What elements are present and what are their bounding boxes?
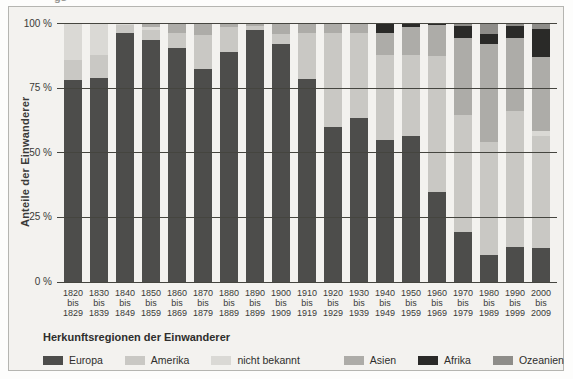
x-axis-labels: 1820bis18291830bis18391840bis18491850bis… [57,288,557,318]
segment-europa [480,255,498,282]
x-label-1830-1839: 1830bis1839 [86,288,112,318]
x-label-1850-1859: 1850bis1859 [138,288,164,318]
legend-label: Amerika [151,354,190,366]
figure-box: Anteile der Einwanderer 100 %75 %50 %25 … [8,6,564,371]
segment-amerika [298,33,316,80]
segment-afrika [376,24,394,33]
legend-swatch-nicht-bekannt [211,356,231,365]
segment-asien [428,25,446,56]
legend-swatch-ozeanien [493,356,513,365]
legend-label: nicht bekannt [237,354,299,366]
segment-asien [532,57,550,131]
segment-asien [480,44,498,142]
segment-ozeanien [480,24,498,34]
x-label-1920-1929: 1920bis1929 [320,288,346,318]
legend-item-nicht-bekannt: nicht bekannt [211,354,299,366]
x-label-1860-1869: 1860bis1869 [164,288,190,318]
segment-asien [272,24,290,34]
y-tick-label-25: 25 % [6,211,52,222]
segment-europa [324,127,342,282]
segment-amerika [376,55,394,140]
legend-label: Ozeanien [519,354,564,366]
legend-swatch-europa [43,356,63,365]
cropped-title-text: gs [54,0,84,3]
segment-afrika [532,29,550,57]
segment-europa [272,44,290,282]
segment-amerika [480,142,498,254]
segment-amerika [194,35,212,69]
segment-amerika [90,55,108,78]
gridline-50 [57,152,557,153]
segment-asien [402,27,420,54]
segment-asien [168,24,186,33]
segment-europa [142,40,160,282]
segment-europa [298,79,316,282]
gridline-100 [57,23,557,24]
segment-europa [168,48,186,282]
legend-label: Afrika [444,354,471,366]
x-label-1880-1889: 1880bis1889 [216,288,242,318]
segment-amerika [506,111,524,247]
segment-amerika [350,33,368,118]
legend-label: Asien [370,354,396,366]
segment-asien [194,24,212,36]
segment-europa [376,140,394,282]
segment-afrika [480,34,498,44]
segment-amerika [116,25,134,33]
legend-item-afrika: Afrika [418,354,471,366]
x-label-1950-1959: 1950bis1959 [398,288,424,318]
x-label-1820-1829: 1820bis1829 [60,288,86,318]
segment-amerika [454,115,472,231]
segment-europa [350,118,368,282]
plot-area: 100 %75 %50 %25 %0 % [57,15,557,282]
y-axis-title: Anteile der Einwanderer [19,67,33,257]
segment-europa [506,247,524,282]
segment-amerika [64,60,82,81]
segment-europa [532,248,550,282]
segment-amerika [220,27,238,52]
legend-row: EuropaAmerikanicht bekanntAsienAfrikaOze… [43,354,553,366]
segment-asien [454,38,472,116]
x-label-1990-1999: 1990bis1999 [502,288,528,318]
legend-item-amerika: Amerika [125,354,190,366]
x-label-2000-2009: 2000bis2009 [528,288,554,318]
segment-europa [194,69,212,282]
x-label-1930-1939: 1930bis1939 [346,288,372,318]
segment-afrika [506,26,524,38]
segment-amerika [272,34,290,44]
legend-title: Herkunftsregionen der Einwanderer [43,331,230,343]
segment-europa [428,192,446,282]
segment-amerika [402,55,420,136]
y-tick-label-50: 50 % [6,147,52,158]
gridline-75 [57,88,557,89]
x-label-1840-1849: 1840bis1849 [112,288,138,318]
segment-asien [298,24,316,33]
segment-nicht-bekannt [64,24,82,60]
legend-swatch-amerika [125,356,145,365]
x-label-1900-1909: 1900bis1909 [268,288,294,318]
y-tick-label-100: 100 % [6,18,52,29]
segment-europa [402,136,420,282]
gridline-25 [57,217,557,218]
segment-asien [376,33,394,55]
x-label-1980-1989: 1980bis1989 [476,288,502,318]
x-label-1870-1879: 1870bis1879 [190,288,216,318]
cropped-title-fragment: gs [54,0,84,3]
legend-item-europa: Europa [43,354,103,366]
segment-asien [350,24,368,33]
x-label-1940-1949: 1940bis1949 [372,288,398,318]
x-label-1970-1979: 1970bis1979 [450,288,476,318]
segment-europa [116,33,134,282]
y-tick-label-75: 75 % [6,82,52,93]
gridline-0 [57,282,557,283]
segment-europa [246,30,264,282]
legend-swatch-asien [344,356,364,365]
segment-europa [454,232,472,282]
segment-asien [324,24,342,33]
x-label-1910-1919: 1910bis1919 [294,288,320,318]
x-label-1960-1969: 1960bis1969 [424,288,450,318]
legend-label: Europa [69,354,103,366]
legend-swatch-afrika [418,356,438,365]
segment-amerika [428,56,446,192]
segment-amerika [324,33,342,127]
